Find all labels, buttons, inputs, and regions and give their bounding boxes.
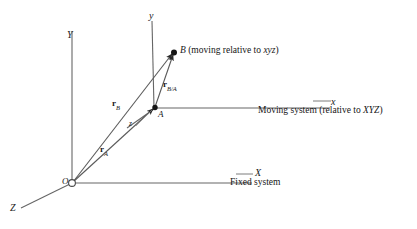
moving-caption-prefix: Moving system (relative to [258,105,363,115]
figure-canvas: Y X Z O y x z A B (moving relative to xy… [0,0,417,229]
vector-label-r-B: rB [112,99,120,110]
point-B-annotation-prefix: (moving relative to [186,45,264,55]
vector-subscript-r-A: A [104,150,108,157]
vector-subscript-r-B-over-A: B/A [167,85,177,92]
vector-label-r-A: rA [100,145,108,156]
vector-label-r-B-over-A: rB/A [163,80,177,91]
fixed-axis-label-Y: Y [67,30,73,40]
moving-caption-suffix: ) [379,105,382,115]
vector-r-A [73,109,153,182]
moving-axis-label-z: z [129,120,132,128]
z-axis-leader [136,110,152,126]
moving-caption-frame: XYZ [363,105,379,115]
point-B-annotation-frame: xyz [263,45,275,55]
point-B-marker [171,50,177,56]
origin-label-O: O [62,177,69,186]
point-A-label: A [158,110,164,119]
origin-O-marker [69,180,76,187]
vector-subscript-r-B: B [116,104,120,111]
fixed-axis-label-Z: Z [10,203,16,213]
moving-axis-label-y: y [149,11,153,21]
moving-axis-y-line [152,21,154,108]
moving-system-caption: Moving system (relative to XYZ) [258,106,383,116]
fixed-system-caption: Fixed system [230,178,280,188]
fixed-axis-Z-line [21,183,72,208]
point-B-annotation-suffix: ) [276,45,279,55]
point-A-marker [152,105,157,110]
point-B-annotation: B (moving relative to xyz) [180,46,279,56]
